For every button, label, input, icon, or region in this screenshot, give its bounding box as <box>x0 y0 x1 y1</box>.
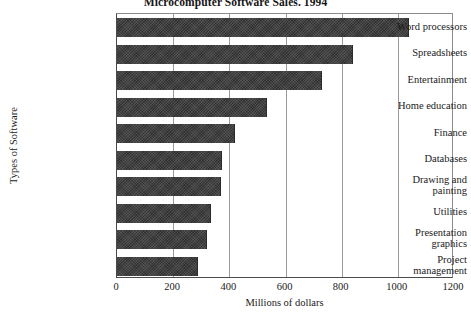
x-axis-tick-label: 200 <box>152 281 192 292</box>
category-label-line: Drawing and <box>412 174 467 185</box>
x-axis-tick-label: 400 <box>208 281 248 292</box>
bar <box>117 98 267 117</box>
y-axis-category-label: Home education <box>359 100 471 111</box>
category-label-line: Finance <box>434 127 467 138</box>
chart-title: Microcomputer Software Sales. 1994 <box>0 0 471 8</box>
y-axis-category-label: Finance <box>359 127 471 138</box>
bar <box>117 151 222 170</box>
bar <box>117 230 207 249</box>
y-axis-category-label: Databases <box>359 153 471 164</box>
y-axis-category-label: Drawing andpainting <box>359 174 471 196</box>
bar <box>117 45 353 64</box>
y-axis-category-label: Utilities <box>359 206 471 217</box>
y-axis-category-label: Presentationgraphics <box>359 227 471 249</box>
category-label-line: Databases <box>424 153 467 164</box>
bar <box>117 177 221 196</box>
bar <box>117 71 322 90</box>
x-axis-title: Millions of dollars <box>116 297 453 308</box>
category-label-line: Word processors <box>397 21 467 32</box>
y-axis-category-label: Word processors <box>359 21 471 32</box>
x-axis-tick-label: 0 <box>96 281 136 292</box>
category-label-line: Presentation <box>415 227 467 238</box>
category-label-line: Entertainment <box>408 74 467 85</box>
category-label-line: Project <box>437 254 467 265</box>
bar <box>117 257 198 276</box>
x-axis-tick-label: 600 <box>265 281 305 292</box>
category-label-line: graphics <box>359 238 467 249</box>
x-axis-tick-label: 1000 <box>377 281 417 292</box>
category-label-line: painting <box>359 185 467 196</box>
bar <box>117 204 211 223</box>
category-label-line: Utilities <box>433 206 467 217</box>
y-axis-category-label: Entertainment <box>359 74 471 85</box>
y-axis-category-label: Spreadsheets <box>359 47 471 58</box>
category-label-line: Spreadsheets <box>412 47 467 58</box>
x-axis-tick-label: 1200 <box>433 281 471 292</box>
bar <box>117 124 235 143</box>
x-axis-tick-label: 800 <box>321 281 361 292</box>
bar-chart: Microcomputer Software Sales. 1994 Types… <box>0 0 471 316</box>
y-axis-title: Types of Software <box>8 81 19 211</box>
y-axis-category-label: Projectmanagement <box>359 254 471 276</box>
category-label-line: management <box>359 265 467 276</box>
category-label-line: Home education <box>398 100 467 111</box>
